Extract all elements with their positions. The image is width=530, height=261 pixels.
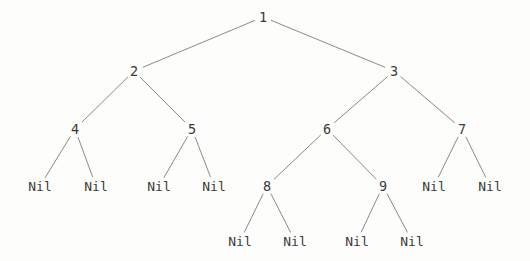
tree-node-7: 7 — [458, 123, 466, 136]
tree-edges-layer — [0, 0, 530, 261]
tree-node-1: 1 — [259, 11, 267, 24]
tree-node-nil: Nil — [283, 235, 306, 248]
tree-node-nil: Nil — [28, 180, 51, 193]
tree-node-6: 6 — [323, 123, 331, 136]
tree-node-nil: Nil — [345, 235, 368, 248]
tree-edge — [140, 77, 185, 122]
tree-node-nil: Nil — [228, 235, 251, 248]
tree-node-nil: Nil — [84, 180, 107, 193]
tree-edge — [271, 194, 290, 232]
tree-edge — [401, 77, 455, 123]
tree-edge — [78, 137, 92, 176]
tree-edge — [45, 137, 70, 178]
tree-edge — [361, 194, 379, 232]
tree-node-nil: Nil — [202, 180, 225, 193]
tree-node-nil: Nil — [478, 180, 501, 193]
binary-tree-diagram: 123456789NilNilNilNilNilNilNilNilNilNil — [0, 0, 530, 261]
tree-edge — [143, 20, 254, 67]
tree-node-8: 8 — [263, 180, 271, 193]
tree-edge — [333, 135, 376, 178]
tree-edge — [466, 137, 486, 177]
tree-edge — [82, 77, 127, 122]
tree-edge — [387, 194, 407, 232]
tree-edge — [271, 20, 384, 67]
tree-node-4: 4 — [71, 123, 79, 136]
tree-node-5: 5 — [188, 123, 196, 136]
tree-edge — [335, 77, 388, 123]
tree-node-nil: Nil — [400, 235, 423, 248]
tree-edge — [244, 194, 263, 232]
tree-edge — [164, 137, 187, 178]
tree-node-nil: Nil — [147, 180, 170, 193]
tree-edge — [438, 137, 458, 177]
tree-node-2: 2 — [130, 65, 138, 78]
tree-edge — [274, 135, 320, 179]
tree-node-3: 3 — [390, 65, 398, 78]
tree-edge — [195, 137, 210, 176]
tree-node-9: 9 — [379, 180, 387, 193]
tree-node-nil: Nil — [422, 180, 445, 193]
